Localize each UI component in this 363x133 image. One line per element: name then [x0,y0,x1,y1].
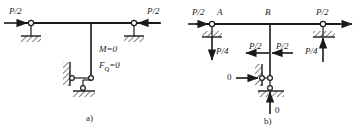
link-pin-left-a [70,76,75,81]
label-load-right-b: P/2 [316,8,329,17]
label-node-b: B [265,8,271,17]
label-load-left-b: P/2 [192,8,205,17]
left-pin-b [209,21,214,26]
wall-hatch-a [63,62,70,86]
label-shear-zero-a: FQ=0 [99,61,120,72]
panel-b [188,21,352,114]
lower-pin-a [81,86,86,91]
label-moment-zero-a: M=0 [99,45,117,54]
label-shear-right-b: P/2 [276,42,289,51]
wall-hatch-b [255,64,262,86]
right-pin-a [131,20,136,25]
caption-a: a) [86,114,93,123]
right-ground-hatch-a [124,36,144,42]
right-ground-hatch-b [313,31,335,37]
label-node-a: A [217,8,223,17]
label-reaction-left-b: P/4 [216,47,229,56]
right-pin-b [320,21,325,26]
lower-ground-hatch-b [258,91,284,97]
link-pin-left-b [260,76,265,81]
panel-a [4,20,161,97]
label-shear-zero-value: =0 [109,60,120,70]
lower-ground-hatch-a [73,91,95,97]
lower-pin-b [268,86,273,91]
label-load-right-a: P/2 [147,7,160,16]
caption-b: b) [264,117,272,126]
label-zero-vertical-b: 0 [275,106,280,115]
left-ground-hatch-b [202,31,222,37]
label-zero-horizontal-b: 0 [227,73,232,82]
label-reaction-right-b: P/4 [305,47,318,56]
structural-free-body-diagram [0,0,363,133]
link-pin-right-b [268,76,273,81]
label-load-left-a: P/2 [9,7,22,16]
label-shear-left-b: P/2 [249,42,262,51]
left-pin-a [28,20,33,25]
left-ground-hatch-a [21,36,41,42]
